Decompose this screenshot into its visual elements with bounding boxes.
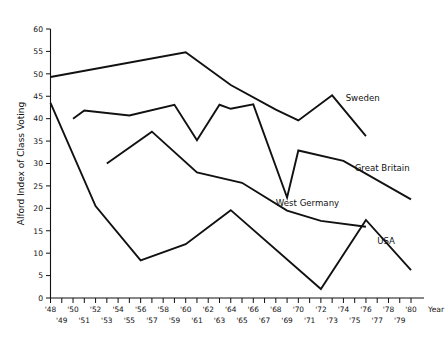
x-tick-label-lower: '69 bbox=[281, 316, 293, 325]
series-label-usa: USA bbox=[377, 236, 395, 246]
x-tick-label-upper: '62 bbox=[203, 305, 214, 314]
y-tick-label: 0 bbox=[38, 294, 43, 303]
series-line-west-germany bbox=[107, 132, 366, 227]
y-tick-label: 50 bbox=[33, 70, 43, 79]
y-tick-label: 10 bbox=[33, 249, 43, 258]
x-tick-label-lower: '67 bbox=[259, 316, 271, 325]
x-tick-label-lower: '51 bbox=[79, 316, 91, 325]
x-tick-label-lower: '73 bbox=[326, 316, 338, 325]
x-tick-label-lower: '71 bbox=[304, 316, 316, 325]
x-tick-label-lower: '59 bbox=[169, 316, 181, 325]
x-tick-label-lower: '63 bbox=[214, 316, 226, 325]
chart-figure: 051015202530354045505560 '48'50'52'54'56… bbox=[0, 0, 447, 339]
y-tick-label: 5 bbox=[38, 271, 43, 280]
line-chart-canvas: 051015202530354045505560 '48'50'52'54'56… bbox=[0, 0, 447, 339]
y-tick-label: 60 bbox=[33, 25, 43, 34]
series-line-usa bbox=[51, 103, 412, 289]
y-tick-label: 40 bbox=[33, 114, 43, 123]
x-tick-label-upper: '60 bbox=[180, 305, 192, 314]
y-tick-label: 20 bbox=[33, 204, 43, 213]
x-tick-label-upper: '72 bbox=[315, 305, 326, 314]
x-tick-label-lower: '75 bbox=[349, 316, 361, 325]
axis-title-group: YearAlford Index of Class Voting bbox=[16, 102, 445, 314]
x-tick-label-upper: '70 bbox=[293, 305, 305, 314]
x-tick-label-upper: '58 bbox=[157, 305, 169, 314]
x-tick-group: '48'50'52'54'56'58'60'62'64'66'68'70'72'… bbox=[45, 298, 417, 325]
x-tick-label-lower: '57 bbox=[146, 316, 158, 325]
x-tick-label-lower: '65 bbox=[236, 316, 248, 325]
y-tick-label: 15 bbox=[33, 227, 43, 236]
x-tick-label-upper: '50 bbox=[67, 305, 79, 314]
series-label-great-britain: Great Britain bbox=[355, 163, 410, 173]
y-tick-label: 30 bbox=[33, 159, 43, 168]
x-tick-label-upper: '74 bbox=[338, 305, 350, 314]
x-tick-label-upper: '68 bbox=[270, 305, 282, 314]
x-tick-label-lower: '49 bbox=[56, 316, 68, 325]
series-label-sweden: Sweden bbox=[346, 93, 380, 103]
x-tick-label-upper: '78 bbox=[383, 305, 395, 314]
x-tick-label-upper: '64 bbox=[225, 305, 237, 314]
x-tick-label-upper: '54 bbox=[112, 305, 124, 314]
x-tick-label-lower: '79 bbox=[394, 316, 406, 325]
series-label-west-germany: West Germany bbox=[276, 198, 339, 208]
x-tick-label-upper: '80 bbox=[405, 305, 417, 314]
x-tick-label-lower: '61 bbox=[191, 316, 203, 325]
x-tick-label-upper: '66 bbox=[248, 305, 260, 314]
y-tick-label: 45 bbox=[33, 92, 43, 101]
x-tick-label-upper: '76 bbox=[360, 305, 372, 314]
y-tick-label: 35 bbox=[33, 137, 43, 146]
y-tick-label: 25 bbox=[33, 182, 43, 191]
x-tick-label-lower: '53 bbox=[101, 316, 113, 325]
x-tick-label-upper: '48 bbox=[45, 305, 57, 314]
x-axis-title: Year bbox=[427, 305, 445, 314]
y-tick-label: 55 bbox=[33, 47, 43, 56]
x-tick-label-lower: '77 bbox=[371, 316, 383, 325]
y-tick-group: 051015202530354045505560 bbox=[33, 25, 50, 303]
x-tick-label-upper: '52 bbox=[90, 305, 101, 314]
x-tick-label-lower: '55 bbox=[124, 316, 136, 325]
y-axis-title: Alford Index of Class Voting bbox=[16, 102, 26, 226]
x-tick-label-upper: '56 bbox=[135, 305, 147, 314]
